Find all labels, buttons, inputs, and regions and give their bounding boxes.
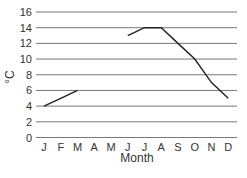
x-tick-label: J bbox=[41, 141, 47, 153]
y-tick-label: 2 bbox=[26, 116, 32, 128]
x-tick-label: D bbox=[224, 141, 232, 153]
y-tick-label: 0 bbox=[26, 132, 32, 144]
data-series-line bbox=[44, 28, 228, 106]
series-segment bbox=[128, 28, 229, 99]
x-tick-label: F bbox=[57, 141, 64, 153]
x-tick-label: N bbox=[208, 141, 216, 153]
line-chart: 0246810121416 JFMAMJJASOND Month °C bbox=[0, 0, 247, 178]
chart-canvas: 0246810121416 JFMAMJJASOND Month °C bbox=[0, 0, 247, 178]
y-tick-label: 12 bbox=[20, 37, 32, 49]
x-tick-label: M bbox=[73, 141, 82, 153]
x-tick-label: S bbox=[174, 141, 181, 153]
y-axis-label: °C bbox=[3, 70, 17, 84]
y-tick-label: 16 bbox=[20, 6, 32, 18]
x-tick-label: M bbox=[106, 141, 115, 153]
y-tick-label: 10 bbox=[20, 53, 32, 65]
y-tick-label: 14 bbox=[20, 22, 32, 34]
series-segment bbox=[44, 90, 78, 106]
y-axis-ticks: 0246810121416 bbox=[20, 6, 32, 144]
y-tick-label: 8 bbox=[26, 69, 32, 81]
x-tick-label: O bbox=[190, 141, 199, 153]
x-axis-label: Month bbox=[120, 151, 153, 165]
x-tick-label: A bbox=[158, 141, 166, 153]
x-tick-label: A bbox=[91, 141, 99, 153]
y-tick-label: 6 bbox=[26, 84, 32, 96]
y-tick-label: 4 bbox=[26, 100, 32, 112]
